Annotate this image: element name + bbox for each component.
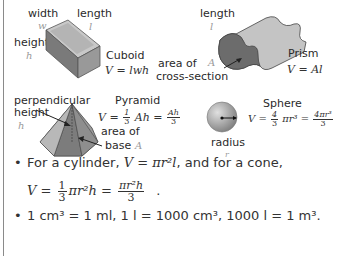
bullet-icon: •: [14, 155, 22, 171]
cone-formula-tail: .: [156, 183, 160, 198]
prism-area-label-line1: area of: [158, 58, 197, 70]
pyramid-base-var: A: [135, 140, 142, 151]
prism-formula: V = Al: [287, 63, 323, 76]
sphere-radius-label: radius: [211, 137, 245, 149]
cone-frac1: 13: [58, 180, 67, 203]
pyramid-formula: V = 13 Ah = Ah3: [98, 109, 181, 126]
pyramid-frac2: Ah3: [167, 109, 180, 126]
cylinder-formula: V = πr²l: [124, 155, 177, 170]
sphere-formula-prefix: V =: [248, 113, 267, 124]
prism-arrow-icon: [224, 56, 244, 70]
unit-conversion-note: 1 cm³ = 1 ml, 1 l = 1000 cm³, 1000 l = 1…: [27, 208, 321, 224]
sphere-frac2: 4πr³3: [313, 111, 332, 128]
pyramid-frac1: 13: [123, 109, 130, 126]
cuboid-formula: V = lwh: [105, 64, 149, 77]
sphere-frac1: 43: [271, 111, 278, 128]
cuboid-name: Cuboid: [106, 50, 144, 62]
cone-formula: V = 13πr²h = πr²h3 .: [27, 180, 160, 203]
cylinder-note-text: For a cylinder,: [27, 155, 124, 170]
cone-formula-mid: πr²h =: [69, 183, 112, 198]
sphere-name: Sphere: [263, 98, 302, 110]
pyramid-formula-prefix: V =: [98, 111, 119, 124]
sphere-icon: [205, 100, 239, 134]
cone-frac2-den: 3: [118, 192, 144, 203]
sphere-frac1-den: 3: [271, 120, 278, 128]
left-border: [3, 0, 4, 256]
pyramid-base-label-line2: base: [105, 140, 131, 152]
sphere-formula: V = 43 πr³ = 4πr³3: [248, 111, 334, 128]
bullet-icon: •: [14, 208, 22, 224]
sphere-frac2-den: 3: [313, 120, 332, 128]
prism-length-var: l: [210, 21, 213, 32]
prism-name: Prism: [288, 48, 318, 60]
pyramid-height-var: h: [18, 120, 24, 131]
prism-area-var: A: [208, 57, 215, 68]
pyramid-base-label-line1: area of: [101, 126, 140, 138]
pyramid-icon: [32, 102, 104, 160]
cone-frac2: πr²h3: [118, 180, 144, 203]
cone-formula-prefix: V =: [27, 183, 51, 198]
cylinder-note: For a cylinder, V = πr²l, and for a cone…: [27, 155, 283, 171]
cuboid-icon: [44, 18, 102, 82]
prism-area-label-line2: cross-section: [156, 71, 228, 83]
sphere-formula-mid: πr³ =: [282, 113, 309, 124]
pyramid-name: Pyramid: [115, 95, 160, 107]
cylinder-note-tail: , and for a cone,: [176, 155, 282, 170]
cuboid-height-var: h: [26, 50, 32, 61]
pyramid-frac2-den: 3: [167, 118, 180, 126]
cone-frac1-den: 3: [58, 192, 67, 203]
pyramid-formula-mid: Ah =: [135, 111, 163, 124]
